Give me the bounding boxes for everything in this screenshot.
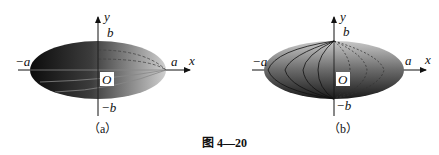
y-axis-label-a: y	[102, 9, 110, 24]
figure-caption: 图 4—20	[202, 136, 247, 150]
a-label-a: a	[171, 54, 178, 69]
b-label-a: b	[107, 25, 114, 40]
a-label-b: a	[405, 53, 412, 68]
neg-b-label-b: −b	[336, 98, 352, 113]
b-label-b: b	[343, 24, 350, 39]
y-axis-label-b: y	[338, 9, 346, 24]
neg-b-label-a: −b	[101, 100, 117, 115]
panel-label-b: （b）	[328, 122, 358, 136]
origin-label-b: O	[338, 72, 348, 87]
neg-a-label-a: −a	[15, 54, 31, 69]
panel-a: O y x b −b −a a （a）	[15, 9, 195, 136]
panel-b: O y x b −b −a a （b）	[252, 9, 431, 136]
figure-canvas: O y x b −b −a a （a） O y x b −b −a a （b） …	[0, 0, 439, 155]
panel-label-a: （a）	[88, 122, 117, 136]
x-axis-label-a: x	[188, 53, 195, 68]
x-axis-label-b: x	[424, 52, 431, 67]
origin-label-a: O	[102, 72, 112, 87]
neg-a-label-b: −a	[252, 54, 268, 69]
